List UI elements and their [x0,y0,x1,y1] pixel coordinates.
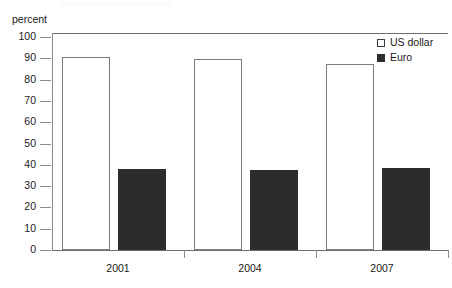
y-tick-mark [40,229,51,230]
x-tick-mark [184,250,185,258]
x-tick-label-2001: 2001 [106,262,129,275]
legend-label-us-dollar: US dollar [390,36,433,49]
y-tick-label: 0 [0,243,36,256]
y-tick-label: 30 [0,179,36,192]
y-tick-mark [40,122,51,123]
y-tick-mark [40,144,51,145]
bar-euro-2001 [118,169,166,250]
legend-label-euro: Euro [390,51,412,64]
y-tick-label: 10 [0,222,36,235]
y-tick-mark [40,80,51,81]
bar-us-dollar-2007 [326,64,374,250]
x-tick-mark [316,250,317,258]
y-tick-label: 80 [0,73,36,86]
chart-legend: US dollar Euro [377,36,433,64]
legend-entry-euro[interactable]: Euro [377,51,433,64]
y-tick-mark [40,58,51,59]
x-tick-mark [448,250,449,258]
bar-us-dollar-2004 [194,59,242,250]
y-tick-mark [40,101,51,102]
y-tick-label: 90 [0,51,36,64]
bar-us-dollar-2001 [62,57,110,250]
x-tick-label-2004: 2004 [238,262,261,275]
scan-artifact [60,1,170,6]
y-tick-label: 100 [0,30,36,43]
y-tick-label: 50 [0,137,36,150]
y-axis-title: percent [12,13,47,26]
y-tick-label: 40 [0,158,36,171]
bar-euro-2007 [382,168,430,250]
x-axis-baseline [52,250,448,251]
y-tick-mark [40,165,51,166]
y-tick-mark [40,250,51,251]
bar-chart-figure: percent 1009080706050403020100 200120042… [0,0,452,288]
y-tick-mark [40,186,51,187]
bar-euro-2004 [250,170,298,251]
y-tick-mark [40,207,51,208]
y-tick-label: 70 [0,94,36,107]
plot-area [52,33,448,250]
x-tick-label-2007: 2007 [370,262,393,275]
y-tick-label: 20 [0,200,36,213]
filled-square-swatch-icon [377,54,385,62]
y-tick-label: 60 [0,115,36,128]
y-tick-mark [40,37,51,38]
open-square-swatch-icon [377,39,385,47]
legend-entry-us-dollar[interactable]: US dollar [377,36,433,49]
